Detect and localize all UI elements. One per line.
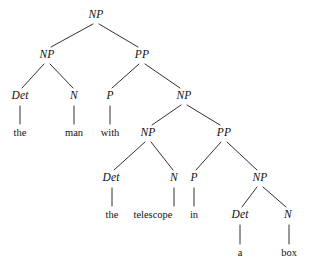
tree-edge	[51, 24, 93, 47]
nonterminal-node-pp-l1: PP	[135, 49, 149, 61]
terminal-node-word-the-1: the	[14, 128, 27, 139]
tree-edge	[263, 187, 286, 207]
nonterminal-node-pp-l3: PP	[217, 127, 231, 139]
tree-edge	[112, 64, 139, 88]
tree-edge	[145, 64, 180, 88]
tree-edge	[227, 142, 257, 170]
nonterminal-node-n-1: N	[70, 90, 78, 102]
tree-edge	[114, 142, 145, 170]
nonterminal-node-np-l1: NP	[39, 49, 54, 61]
nonterminal-node-p-1: P	[106, 90, 113, 102]
nonterminal-node-n-2: N	[170, 172, 178, 184]
nonterminal-node-np-l4: NP	[252, 172, 267, 184]
terminal-node-word-the-2: the	[106, 210, 119, 221]
tree-edge	[242, 187, 257, 207]
nonterminal-node-np-root: NP	[88, 9, 103, 21]
tree-edge	[50, 64, 73, 88]
terminal-node-word-with: with	[101, 128, 120, 139]
nonterminal-node-np-l3: NP	[140, 127, 155, 139]
tree-edge	[151, 142, 173, 170]
syntax-tree-figure: NPNPPPDetNPNPthemanwithNPPPDetNPNPthetel…	[0, 0, 311, 273]
nonterminal-node-np-l2: NP	[176, 90, 191, 102]
nonterminal-node-det-1: Det	[11, 90, 28, 102]
nonterminal-node-det-2: Det	[102, 172, 119, 184]
tree-edge	[196, 142, 221, 170]
nonterminal-node-p-2: P	[190, 172, 197, 184]
terminal-node-word-box: box	[281, 248, 297, 259]
nonterminal-node-det-3: Det	[231, 209, 248, 221]
tree-edge	[22, 64, 44, 88]
terminal-node-word-a: a	[238, 248, 243, 259]
terminal-node-word-man: man	[65, 128, 83, 139]
nonterminal-node-n-3: N	[284, 209, 292, 221]
terminal-node-word-in: in	[190, 210, 198, 221]
tree-edge	[187, 105, 220, 125]
tree-edge	[99, 24, 138, 47]
terminal-node-word-telescope: telescope	[133, 210, 172, 221]
tree-edge	[152, 105, 181, 125]
